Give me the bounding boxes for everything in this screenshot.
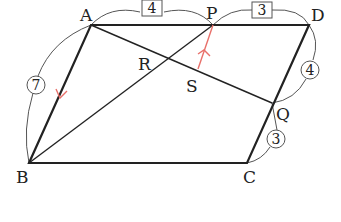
geometry-diagram: 4 3 7 4 3 A P D Q C B R S [0, 0, 341, 222]
point-label-s: S [186, 76, 198, 96]
label-qc-value: 3 [272, 131, 281, 147]
arc-ab-top [38, 25, 91, 76]
arc-ap-left [91, 10, 140, 25]
vertex-label-c: C [243, 167, 256, 187]
segment-aq [91, 25, 272, 103]
vertex-label-p: P [206, 3, 217, 23]
label-ab-value: 7 [32, 77, 41, 93]
arc-dq-top [309, 25, 316, 60]
arc-pd-right [272, 10, 309, 25]
vertex-label-q: Q [276, 104, 290, 124]
vertex-label-d: D [311, 5, 325, 25]
vertex-label-b: B [16, 167, 29, 187]
point-label-r: R [138, 54, 152, 74]
vertex-label-a: A [79, 5, 93, 25]
label-pd-value: 3 [258, 2, 267, 18]
arc-pd-left [213, 10, 252, 25]
arrow-p-to-s [198, 25, 213, 69]
arc-ab-bottom [26, 93, 33, 163]
label-ap-value: 4 [148, 0, 157, 16]
arc-dq-bottom [272, 79, 306, 103]
label-dq-value: 4 [306, 62, 315, 78]
parallelogram-abcd [29, 25, 309, 163]
